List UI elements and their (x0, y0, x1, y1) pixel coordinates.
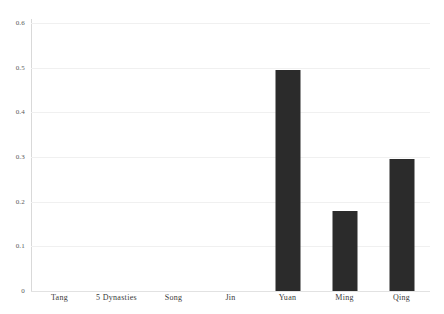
y-tick-label: 0.6 (16, 19, 25, 27)
y-tick-label: 0.1 (16, 242, 25, 250)
bar-slot (88, 23, 145, 291)
y-tick-label: 0.2 (16, 198, 25, 206)
x-tick-label: Tang (51, 293, 68, 302)
y-tick-label: 0.5 (16, 64, 25, 72)
bar-slot (202, 23, 259, 291)
x-tick-label: Yuan (279, 293, 297, 302)
y-tick-label: 0.3 (16, 153, 25, 161)
x-tick-label: Qing (393, 293, 410, 302)
x-tick-label: Ming (335, 293, 354, 302)
x-tick-label: 5 Dynasties (96, 293, 137, 302)
y-tick-label: 0 (21, 287, 25, 295)
bar-slot (316, 23, 373, 291)
x-tick-label: Song (165, 293, 183, 302)
x-tick-label: Jin (225, 293, 235, 302)
bar-slot (259, 23, 316, 291)
y-tick-label: 0.4 (16, 108, 25, 116)
bar-slot (31, 23, 88, 291)
x-axis-labels-group: Tang5 DynastiesSongJinYuanMingQing (31, 293, 430, 309)
bar[interactable] (389, 159, 414, 291)
bar-slot (145, 23, 202, 291)
bar-chart: 00.10.20.30.40.50.6 Tang5 DynastiesSongJ… (0, 0, 444, 314)
bars-group (31, 23, 430, 291)
bar[interactable] (332, 211, 357, 291)
bar-slot (373, 23, 430, 291)
gridline-0: 0 (31, 291, 430, 292)
bar[interactable] (275, 70, 300, 291)
